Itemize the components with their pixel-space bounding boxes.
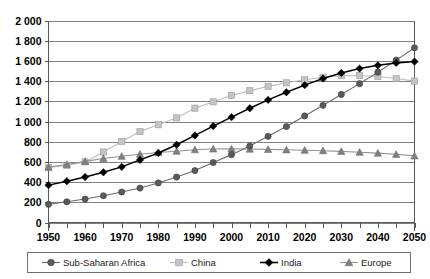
data-point-marker: [320, 102, 326, 108]
legend-item-china[interactable]: China: [170, 257, 217, 268]
data-point-marker: [283, 89, 290, 96]
data-point-marker: [411, 45, 417, 51]
y-tick-label: 1 200: [15, 95, 41, 107]
data-point-marker: [64, 199, 70, 205]
data-point-marker: [357, 72, 363, 78]
data-point-marker: [210, 122, 217, 129]
data-point-marker: [247, 143, 253, 149]
data-point-marker: [100, 149, 106, 155]
x-tick-labels: 1950196019701980199020002010202020302040…: [37, 231, 427, 243]
chart-screenshot: 02004006008001 0001 2001 4001 6001 8002 …: [0, 0, 430, 279]
x-tick-label: 1950: [37, 231, 61, 243]
data-point-marker: [100, 169, 107, 176]
data-point-marker: [283, 80, 289, 86]
y-tick-label: 1 600: [15, 55, 41, 67]
data-point-marker: [119, 138, 125, 144]
y-tick-label: 2 000: [15, 15, 41, 27]
y-tick-label: 800: [24, 136, 42, 148]
data-point-marker: [174, 174, 180, 180]
data-point-marker: [264, 96, 271, 103]
data-point-marker: [137, 129, 143, 135]
data-point-marker: [265, 259, 273, 267]
data-point-marker: [82, 196, 88, 202]
data-point-marker: [210, 159, 216, 165]
data-point-marker: [119, 189, 125, 195]
data-point-marker: [411, 58, 418, 65]
y-tick-label: 600: [24, 156, 42, 168]
x-tick-label: 2000: [220, 231, 244, 243]
x-tick-label: 2050: [403, 231, 427, 243]
data-point-marker: [228, 152, 234, 158]
legend-label: India: [281, 257, 302, 268]
data-point-marker: [283, 123, 289, 129]
x-tick-label: 2010: [256, 231, 280, 243]
data-point-marker: [192, 105, 198, 111]
x-tick-label: 2020: [293, 231, 317, 243]
data-point-marker: [265, 133, 271, 139]
series-layer: [45, 45, 418, 208]
axes: [45, 21, 415, 231]
legend-label: Europe: [361, 257, 392, 268]
x-tick-label: 2040: [366, 231, 390, 243]
y-tick-label: 1 800: [15, 35, 41, 47]
data-point-marker: [81, 173, 88, 180]
y-tick-label: 1 000: [15, 116, 41, 128]
legend-item-india[interactable]: India: [260, 257, 302, 268]
legend: Sub-Saharan AfricaChinaIndiaEurope: [28, 253, 411, 273]
data-point-marker: [265, 83, 271, 89]
data-point-marker: [374, 62, 381, 69]
data-point-marker: [176, 259, 183, 266]
x-tick-label: 1980: [147, 231, 171, 243]
data-point-marker: [191, 132, 198, 139]
y-tick-label: 400: [24, 176, 42, 188]
y-tick-labels: 02004006008001 0001 2001 4001 6001 8002 …: [15, 15, 41, 229]
x-tick-label: 1990: [183, 231, 207, 243]
legend-item-europe[interactable]: Europe: [340, 257, 392, 268]
data-point-marker: [228, 113, 235, 120]
legend-item-sub-saharan-africa[interactable]: Sub-Saharan Africa: [42, 257, 146, 268]
data-point-marker: [375, 69, 381, 75]
legend-label: Sub-Saharan Africa: [63, 257, 146, 268]
legend-label: China: [191, 257, 217, 268]
data-point-marker: [174, 115, 180, 121]
x-tick-label: 1960: [73, 231, 97, 243]
x-tick-label: 1970: [110, 231, 134, 243]
data-point-marker: [357, 81, 363, 87]
data-point-marker: [155, 180, 161, 186]
data-point-marker: [118, 163, 125, 170]
data-point-marker: [411, 78, 417, 84]
data-point-marker: [356, 65, 363, 72]
data-point-marker: [247, 88, 253, 94]
data-point-marker: [137, 185, 143, 191]
data-point-marker: [338, 91, 344, 97]
data-point-marker: [246, 105, 253, 112]
data-point-marker: [155, 122, 161, 128]
y-tick-label: 0: [36, 217, 42, 229]
data-point-marker: [192, 167, 198, 173]
data-point-marker: [48, 259, 55, 266]
y-tick-label: 200: [24, 196, 42, 208]
data-point-marker: [393, 75, 399, 81]
data-point-marker: [302, 113, 308, 119]
x-tick-label: 2030: [330, 231, 354, 243]
population-projection-line-chart: 02004006008001 0001 2001 4001 6001 8002 …: [0, 0, 430, 279]
series-line: [49, 62, 415, 186]
data-point-marker: [228, 92, 234, 98]
data-point-marker: [45, 201, 51, 207]
y-tick-label: 1 400: [15, 75, 41, 87]
data-point-marker: [210, 99, 216, 105]
data-point-marker: [63, 177, 70, 184]
data-point-marker: [100, 193, 106, 199]
